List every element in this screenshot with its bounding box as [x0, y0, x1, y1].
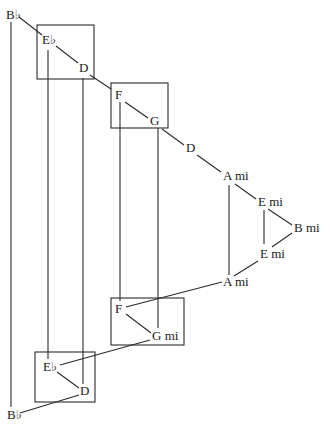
chord-label-emi_bot: E mi [260, 247, 285, 260]
chord-label-bmi: B mi [294, 221, 320, 234]
chord-label-eb_bot: E♭ [43, 360, 57, 373]
chord-label-emi_top: E mi [258, 195, 283, 208]
edge-eb_bot-d_bot [57, 372, 79, 388]
chord-label-bb_bot: B♭ [7, 408, 22, 421]
chord-relationship-diagram: B♭E♭DFGDA miE miB miE miA miFG miE♭DB♭ [0, 0, 330, 432]
chord-label-f_top: F [115, 88, 122, 101]
edge-d_top-f_top [90, 75, 111, 89]
chord-label-ami_top: A mi [223, 169, 249, 182]
edge-d_bot-bb_bot [20, 395, 79, 413]
edge-f_bot-gmi_bot [126, 314, 151, 333]
edge-emi_top-bmi [268, 209, 292, 225]
chord-label-g_top: G [150, 114, 159, 127]
edge-bb_top-eb_top [19, 17, 42, 35]
chord-label-d_bot: D [80, 384, 89, 397]
chord-label-gmi_bot: G mi [152, 329, 178, 342]
edge-f_top-g_top [125, 102, 148, 118]
edge-g_top-d_mid [162, 129, 184, 145]
chord-label-d_mid: D [186, 141, 195, 154]
chord-label-d_top: D [79, 61, 88, 74]
edge-ami_top-emi_top [235, 184, 256, 199]
edge-ami_bot-f_bot [126, 282, 222, 307]
chord-label-bb_top: B♭ [6, 8, 21, 21]
chord-label-f_bot: F [115, 302, 122, 315]
edge-eb_top-d_top [56, 46, 78, 63]
chord-label-eb_top: E♭ [42, 33, 56, 46]
edge-d_mid-ami_top [197, 155, 221, 172]
edge-bmi-emi_bot [272, 233, 292, 247]
chord-label-ami_bot: A mi [223, 275, 249, 288]
